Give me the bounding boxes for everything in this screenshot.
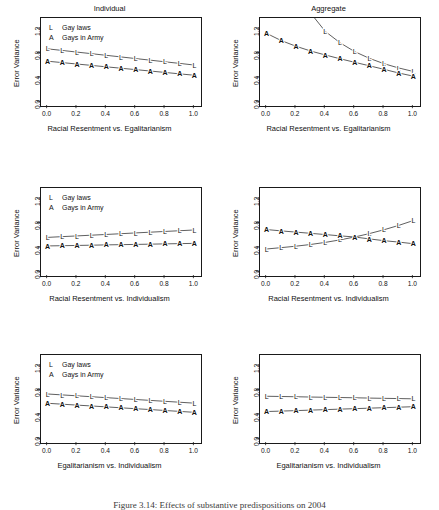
x-axis-label-p6: Egalitarianism vs. Individualism [219, 461, 438, 470]
x-tick-label: 0.4 [93, 280, 117, 287]
figure-root: IndividualLLLLLLLLLLLLLLLLLLLLLLAAAAAAAA… [0, 0, 439, 510]
y-tick-label: 0.8 [34, 221, 41, 230]
y-tick-label: 0.8 [253, 51, 260, 60]
x-tick-label: 1.0 [181, 110, 205, 117]
x-tick-label: 1.0 [400, 280, 424, 287]
x-axis-label-p5: Egalitarianism vs. Individualism [0, 461, 219, 470]
x-tick-label: 0.2 [283, 447, 307, 454]
chart-panel-p2: AggregateLLLLLLLLLLLLLLLLAAAAAAAAAAAAAAA… [219, 0, 438, 168]
y-axis-label-p4: Error Variance [231, 209, 240, 257]
y-tick-label: 0.4 [34, 76, 41, 85]
x-tick-label: 0.4 [312, 110, 336, 117]
x-tick-label: 0.4 [312, 447, 336, 454]
x-tick-label: 0.4 [312, 280, 336, 287]
y-tick-label: 0.4 [253, 76, 260, 85]
x-tick-label: 1.0 [181, 280, 205, 287]
x-tick-label: 0.0 [254, 280, 278, 287]
x-tick-label: 0.0 [35, 110, 59, 117]
x-tick-label: 0.6 [123, 280, 147, 287]
figure-caption: Figure 3.14: Effects of substantive pred… [0, 500, 439, 510]
x-tick-label: 0.0 [35, 447, 59, 454]
axis-ticks-p1 [0, 0, 219, 168]
x-tick-label: 0.0 [35, 280, 59, 287]
y-axis-label-p5: Error Variance [12, 376, 21, 424]
y-tick-label: 0.8 [34, 51, 41, 60]
x-tick-label: 0.0 [254, 110, 278, 117]
y-tick-label: 0.0 [34, 270, 41, 279]
chart-panel-p5: LLLLLLLLLLLLLLLLLLLLLLAAAAAAAAAAAAAAAAAA… [0, 337, 219, 505]
y-axis-label-p1: Error Variance [12, 39, 21, 87]
x-tick-label: 0.8 [152, 280, 176, 287]
y-axis-label-p6: Error Variance [231, 376, 240, 424]
axis-ticks-p2 [219, 0, 438, 168]
x-tick-label: 0.2 [283, 280, 307, 287]
x-tick-label: 0.8 [152, 110, 176, 117]
x-axis-label-p2: Racial Resentment vs. Egalitarianism [219, 124, 438, 133]
y-tick-label: 0.8 [253, 221, 260, 230]
y-tick-label: 0.8 [253, 388, 260, 397]
y-tick-label: 0.0 [253, 437, 260, 446]
y-axis-label-p2: Error Variance [231, 39, 240, 87]
x-tick-label: 0.6 [342, 280, 366, 287]
x-tick-label: 1.0 [400, 110, 424, 117]
y-tick-label: 1.2 [34, 364, 41, 373]
x-tick-label: 0.2 [64, 110, 88, 117]
x-tick-label: 0.8 [152, 447, 176, 454]
y-tick-label: 0.4 [253, 413, 260, 422]
x-axis-label-p1: Racial Resentment vs. Egalitarianism [0, 124, 219, 133]
x-axis-label-p4: Racial Resentment vs. Individualism [219, 294, 438, 303]
axis-ticks-p4 [219, 170, 438, 338]
y-tick-label: 1.2 [34, 197, 41, 206]
x-tick-label: 0.8 [371, 110, 395, 117]
x-tick-label: 0.2 [64, 280, 88, 287]
y-tick-label: 0.0 [253, 100, 260, 109]
x-axis-label-p3: Racial Resentment vs. Individualism [0, 294, 219, 303]
chart-panel-p3: LLLLLLLLLLLLLLLLLLLLLLAAAAAAAAAAAAAAAAAA… [0, 170, 219, 338]
x-tick-label: 0.6 [123, 447, 147, 454]
x-tick-label: 1.0 [181, 447, 205, 454]
chart-panel-p1: IndividualLLLLLLLLLLLLLLLLLLLLLLAAAAAAAA… [0, 0, 219, 168]
axis-ticks-p6 [219, 337, 438, 505]
y-axis-label-p3: Error Variance [12, 209, 21, 257]
x-tick-label: 0.8 [371, 447, 395, 454]
x-tick-label: 0.8 [371, 280, 395, 287]
axis-ticks-p3 [0, 170, 219, 338]
x-tick-label: 0.6 [123, 110, 147, 117]
x-tick-label: 0.0 [254, 447, 278, 454]
x-tick-label: 0.6 [342, 447, 366, 454]
x-tick-label: 1.0 [400, 447, 424, 454]
y-tick-label: 0.8 [34, 388, 41, 397]
x-tick-label: 0.4 [93, 447, 117, 454]
y-tick-label: 0.4 [253, 246, 260, 255]
y-tick-label: 0.0 [34, 100, 41, 109]
y-tick-label: 0.0 [253, 270, 260, 279]
y-tick-label: 1.2 [34, 27, 41, 36]
y-tick-label: 1.2 [253, 27, 260, 36]
chart-panel-p4: LLLLLLLLLLLLLLLLLLLLLLAAAAAAAAAAAAAAAAAA… [219, 170, 438, 338]
x-tick-label: 0.6 [342, 110, 366, 117]
y-tick-label: 1.2 [253, 364, 260, 373]
axis-ticks-p5 [0, 337, 219, 505]
y-tick-label: 0.0 [34, 437, 41, 446]
x-tick-label: 0.2 [64, 447, 88, 454]
y-tick-label: 0.4 [34, 413, 41, 422]
y-tick-label: 1.2 [253, 197, 260, 206]
x-tick-label: 0.4 [93, 110, 117, 117]
y-tick-label: 0.4 [34, 246, 41, 255]
x-tick-label: 0.2 [283, 110, 307, 117]
chart-panel-p6: LLLLLLLLLLLLLLLLLLLLLLAAAAAAAAAAAAAAAAAA… [219, 337, 438, 505]
